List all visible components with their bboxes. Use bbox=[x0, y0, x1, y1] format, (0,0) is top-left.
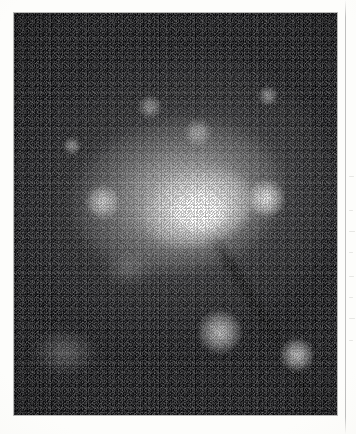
bleed-mark-5 bbox=[349, 276, 354, 277]
companion-blob bbox=[36, 332, 94, 372]
bleed-mark-6 bbox=[349, 297, 353, 298]
grain-dark-layer bbox=[14, 13, 337, 415]
source-e bbox=[198, 310, 242, 354]
plate-image-area bbox=[14, 13, 337, 415]
figure-page bbox=[0, 0, 356, 434]
source-h bbox=[63, 137, 81, 155]
galaxy-outer-halo bbox=[14, 29, 337, 362]
galaxy-nucleus bbox=[172, 193, 226, 231]
bleed-mark-3 bbox=[349, 231, 355, 232]
plate-vignette bbox=[14, 13, 337, 415]
bleed-mark-4 bbox=[349, 252, 353, 253]
bleed-mark-2 bbox=[349, 210, 353, 211]
dust-lane-lower bbox=[280, 349, 319, 414]
adjacent-column-rule bbox=[345, 0, 346, 434]
source-b bbox=[184, 119, 213, 148]
source-f bbox=[280, 338, 314, 372]
halo-knot bbox=[105, 252, 151, 284]
bleed-mark-1 bbox=[349, 176, 354, 177]
diagonal-dust-lane bbox=[208, 234, 295, 366]
bleed-mark-8 bbox=[349, 340, 353, 341]
galaxy-core-glow bbox=[135, 159, 262, 258]
source-g bbox=[258, 86, 279, 107]
astronomical-plate bbox=[14, 13, 337, 415]
source-d bbox=[246, 179, 285, 218]
source-a bbox=[138, 95, 161, 118]
bleed-mark-7 bbox=[349, 318, 355, 319]
source-c bbox=[85, 184, 121, 220]
galaxy-mid-halo bbox=[61, 104, 294, 288]
grain-light-layer bbox=[14, 13, 337, 415]
